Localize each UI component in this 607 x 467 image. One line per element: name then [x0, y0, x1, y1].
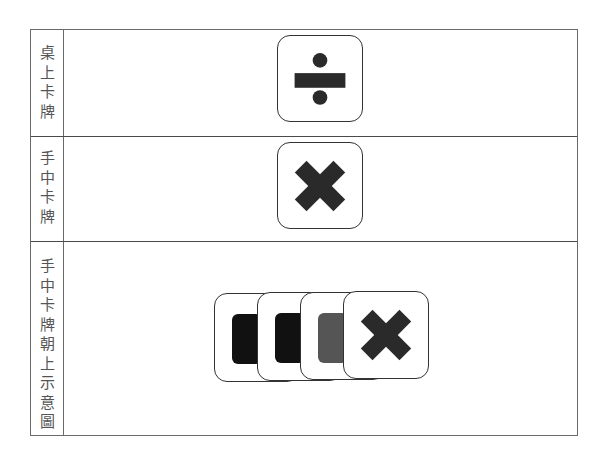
multiply-icon [278, 143, 362, 228]
row-label: 桌 上 卡 牌 [31, 44, 63, 122]
multiply-icon [344, 292, 428, 378]
stacked-card-4[interactable] [343, 291, 429, 379]
divide-icon [278, 36, 362, 121]
row-table-card: 桌 上 卡 牌 [31, 30, 577, 136]
row-label: 手 中 卡 牌 [31, 149, 63, 227]
card-table: 桌 上 卡 牌 手 中 卡 牌 [30, 29, 578, 436]
row-label-cell: 手 中 卡 牌 [31, 137, 64, 241]
hand-card[interactable] [277, 142, 363, 229]
row-hand-faceup-diagram: 手 中 卡 牌 朝 上 示 意 圖 [31, 241, 577, 435]
row-label-cell: 桌 上 卡 牌 [31, 30, 64, 136]
table-card[interactable] [277, 35, 363, 122]
row-label: 手 中 卡 牌 朝 上 示 意 圖 [31, 257, 63, 433]
row-hand-card: 手 中 卡 牌 [31, 136, 577, 241]
row-label-cell: 手 中 卡 牌 朝 上 示 意 圖 [31, 242, 64, 435]
